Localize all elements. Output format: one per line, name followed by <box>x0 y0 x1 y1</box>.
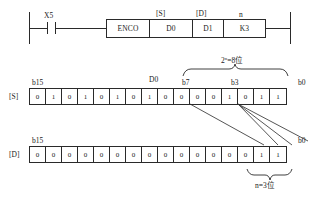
source-label-register: D0 <box>149 76 158 84</box>
dest-bit-8: 0 <box>142 147 158 162</box>
dest-bit-row: 0000000000000011 <box>29 146 287 163</box>
brace-label-dest: n=3位 <box>255 182 274 190</box>
source-label-b0: b0 <box>298 79 306 87</box>
map-line-2 <box>238 104 278 145</box>
source-bit-4: 0 <box>206 89 222 104</box>
dest-bit-10: 0 <box>110 147 126 162</box>
instruction-cell-enco[interactable]: ENCO <box>106 19 150 38</box>
source-label-b15: b15 <box>32 79 43 87</box>
brace-label-source-text: 2n=8位 <box>221 56 242 65</box>
dest-bit-5: 0 <box>190 147 206 162</box>
dest-bit-11: 0 <box>94 147 110 162</box>
source-bit-8: 1 <box>142 89 158 104</box>
operand-header-n: n <box>239 11 243 19</box>
instruction-cell-destination[interactable]: D1 <box>192 19 224 38</box>
source-bit-2: 0 <box>238 89 254 104</box>
source-bit-12: 1 <box>78 89 94 104</box>
dest-bit-12: 0 <box>78 147 94 162</box>
source-bit-11: 0 <box>94 89 110 104</box>
source-bit-5: 0 <box>190 89 206 104</box>
source-bit-14: 1 <box>46 89 62 104</box>
dest-bit-3: 0 <box>222 147 238 162</box>
source-label-b3: b3 <box>231 79 239 87</box>
dest-bit-7: 0 <box>158 147 174 162</box>
source-bit-6: 0 <box>174 89 190 104</box>
instruction-cell-n[interactable]: K3 <box>223 19 266 38</box>
encode-instruction-diagram: X5 [S] [D] n ENCO D0 D1 K3 2n=8位 n=3位 b1… <box>0 0 322 201</box>
dest-bit-1: 1 <box>254 147 270 162</box>
source-bit-3: 1 <box>222 89 238 104</box>
map-line-1 <box>190 104 264 145</box>
brace-label-source: 2n=8位 <box>221 55 242 64</box>
contact-label-x5: X5 <box>44 12 53 20</box>
dest-bit-6: 0 <box>174 147 190 162</box>
operand-header-source: [S] <box>156 10 165 18</box>
source-bit-9: 0 <box>126 89 142 104</box>
map-line-3 <box>238 104 292 145</box>
brace-label-dest-text: n=3位 <box>255 181 274 190</box>
brace-source-byte <box>183 64 288 76</box>
dest-label-b15: b15 <box>32 137 43 145</box>
row-tag-dest: [D] <box>9 150 19 159</box>
source-bit-10: 1 <box>110 89 126 104</box>
row-tag-source: [S] <box>9 92 18 101</box>
dest-bit-15: 0 <box>30 147 46 162</box>
dest-label-b0: b0 <box>298 137 306 145</box>
instruction-cell-source[interactable]: D0 <box>149 19 193 38</box>
source-label-b7: b7 <box>182 79 190 87</box>
source-bit-1: 1 <box>254 89 270 104</box>
source-bit-0: 1 <box>270 89 286 104</box>
operand-header-destination: [D] <box>196 10 206 18</box>
source-bit-15: 0 <box>30 89 46 104</box>
dest-bit-2: 0 <box>238 147 254 162</box>
dest-bit-14: 0 <box>46 147 62 162</box>
brace-dest-n-bits <box>247 169 292 180</box>
source-bit-13: 0 <box>62 89 78 104</box>
dest-bit-9: 0 <box>126 147 142 162</box>
source-bit-7: 0 <box>158 89 174 104</box>
dest-bit-4: 0 <box>206 147 222 162</box>
dest-bit-13: 0 <box>62 147 78 162</box>
dest-bit-0: 1 <box>270 147 286 162</box>
source-bit-row: 0101010100001011 <box>29 88 287 105</box>
